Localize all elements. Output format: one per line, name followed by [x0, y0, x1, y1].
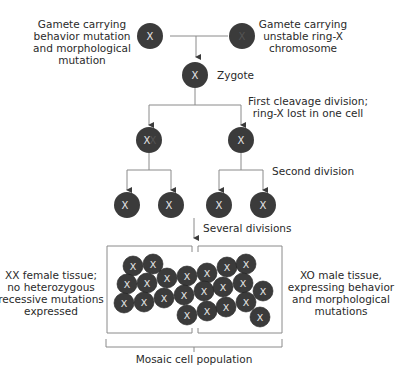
svg-text:X: X [216, 200, 223, 211]
xo-male-tissue-label: XO male tissue, expressing behavior and … [288, 269, 394, 317]
label-line: chromosome [259, 42, 347, 54]
svg-text:X: X [243, 297, 250, 308]
svg-text:X: X [144, 278, 151, 289]
svg-text:X: X [204, 306, 211, 317]
svg-text:X: X [201, 286, 208, 297]
first-division-label: First cleavage division; ring-X lost in … [248, 95, 368, 119]
label-line: mutations [288, 305, 394, 317]
mosaic-cells: XX XXX XXXX XXXX XXXX XXXXX [114, 254, 273, 327]
svg-text:X: X [238, 135, 245, 146]
svg-text:X: X [184, 310, 191, 321]
svg-text:X: X [161, 293, 168, 304]
svg-text:X: X [181, 290, 188, 301]
svg-text:X: X [122, 200, 129, 211]
gamete-right-cell: X [229, 23, 255, 49]
svg-text:X: X [260, 286, 267, 297]
label-line: expressed [0, 305, 104, 317]
label-line: unstable ring-X [259, 30, 347, 42]
mosaic-population-label: Mosaic cell population [136, 353, 253, 365]
svg-text:X: X [223, 302, 230, 313]
label-line: and morphological [33, 42, 131, 54]
svg-text:X: X [257, 312, 264, 323]
svg-text:X: X [224, 262, 231, 273]
first-division-cell-xo: X [228, 127, 254, 153]
svg-text:X: X [166, 200, 173, 211]
svg-text:X: X [130, 261, 137, 272]
svg-text:X: X [141, 297, 148, 308]
label-line: recessive mutations [0, 293, 104, 305]
zygote-label: Zygote [217, 69, 254, 81]
svg-text:X: X [121, 298, 128, 309]
label-line: mutation [33, 54, 131, 66]
svg-text:X: X [164, 273, 171, 284]
second-division-label: Second division [272, 165, 354, 177]
svg-text:X: X [240, 278, 247, 289]
label-line: Gamete carrying [259, 18, 347, 30]
label-line: XX female tissue; [0, 269, 104, 281]
svg-text:X: X [243, 259, 250, 270]
label-line: no heterozygous [0, 281, 104, 293]
second-division-cells: X X X X [114, 192, 276, 218]
gamete-right-label: Gamete carrying unstable ring-X chromoso… [259, 18, 347, 54]
first-division-cell-xx: X X [136, 127, 162, 153]
svg-text:X: X [192, 70, 199, 81]
svg-text:X: X [124, 279, 131, 290]
svg-text:X: X [239, 31, 246, 42]
label-line: expressing behavior [288, 281, 394, 293]
zygote-cell: X [182, 62, 208, 88]
svg-text:X: X [220, 282, 227, 293]
gamete-left-label: Gamete carrying behavior mutation and mo… [33, 18, 131, 66]
label-line: First cleavage division; [248, 95, 368, 107]
svg-text:X: X [150, 135, 157, 146]
label-line: Gamete carrying [33, 18, 131, 30]
svg-text:X: X [147, 31, 154, 42]
gamete-left-cell: X [137, 23, 163, 49]
label-line: ring-X lost in one cell [248, 107, 368, 119]
xx-female-tissue-label: XX female tissue; no heterozygous recess… [0, 269, 104, 317]
svg-text:X: X [260, 200, 267, 211]
svg-text:X: X [204, 268, 211, 279]
label-line: behavior mutation [33, 30, 131, 42]
several-divisions-label: Several divisions [203, 222, 291, 234]
label-line: XO male tissue, [288, 269, 394, 281]
svg-text:X: X [150, 259, 157, 270]
label-line: and morphological [288, 293, 394, 305]
svg-text:X: X [184, 271, 191, 282]
